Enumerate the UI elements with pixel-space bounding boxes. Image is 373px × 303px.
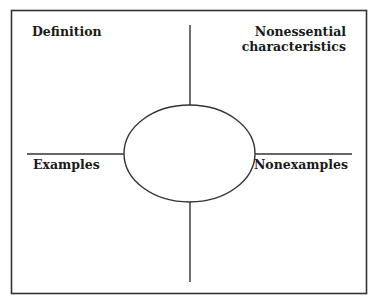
nonessential-line: Nonessential — [242, 24, 346, 39]
center-ellipse[interactable] — [124, 105, 255, 202]
nonexamples-label: Nonexamples — [254, 157, 348, 172]
examples-label: Examples — [33, 157, 100, 172]
definition-label: Definition — [32, 24, 102, 39]
characteristics-line: characteristics — [242, 39, 346, 54]
nonessential-characteristics-label: Nonessential characteristics — [242, 24, 346, 54]
